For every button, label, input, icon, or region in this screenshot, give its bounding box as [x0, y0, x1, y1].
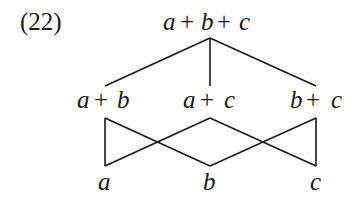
node-b: b [203, 168, 216, 195]
node-ac-term-c: c [224, 86, 235, 113]
lattice-diagram: (22) a + b + c a + b a + c b + c a b c [0, 0, 360, 201]
node-a-plus-b: a + b [77, 86, 130, 113]
node-a-plus-c: a + c [183, 86, 235, 113]
node-top-term-a: a [163, 8, 176, 35]
example-number: (22) [20, 8, 62, 36]
edge-top-to-ab [105, 38, 210, 86]
node-ab-term-a: a [77, 86, 90, 113]
node-top-plus-1: + [180, 8, 194, 35]
node-a-plus-b-plus-c: a + b + c [163, 8, 250, 35]
node-bc-term-c: c [331, 86, 342, 113]
node-ab-term-b: b [117, 86, 130, 113]
node-top-plus-2: + [217, 8, 231, 35]
node-top-term-b: b [201, 8, 214, 35]
node-b-plus-c: b + c [290, 86, 342, 113]
edge-top-to-bc [210, 38, 316, 86]
node-bc-term-b: b [290, 86, 303, 113]
node-ac-term-a: a [183, 86, 196, 113]
node-ab-plus: + [94, 86, 108, 113]
node-c: c [310, 168, 321, 195]
node-ac-plus: + [200, 86, 214, 113]
node-top-term-c: c [239, 8, 250, 35]
node-bc-plus: + [306, 86, 320, 113]
node-a: a [98, 168, 111, 195]
